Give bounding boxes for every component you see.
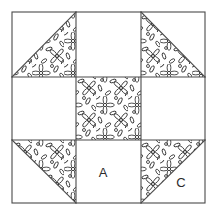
patch-label-a: A bbox=[99, 165, 108, 180]
patch-label-c: C bbox=[176, 175, 185, 190]
quilt-block-svg: A C bbox=[0, 0, 218, 214]
patch-center-print bbox=[76, 77, 141, 140]
quilt-block-figure: A C bbox=[0, 0, 218, 214]
